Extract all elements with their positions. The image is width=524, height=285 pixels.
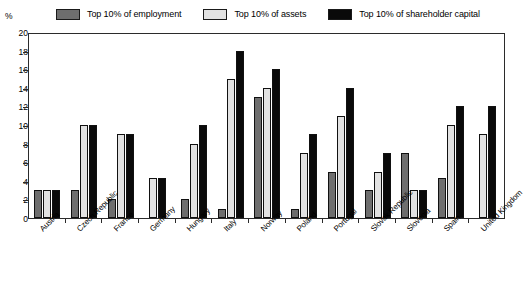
legend-swatch-icon [203,9,227,20]
x-tick-mark [322,219,323,223]
bar-capital[interactable] [456,106,464,218]
bar-group [176,34,213,218]
bar-employment[interactable] [181,199,189,218]
bar-capital[interactable] [272,69,280,218]
bar-capital[interactable] [488,106,496,218]
bar-capital[interactable] [126,134,134,218]
bar-assets[interactable] [300,153,308,218]
legend-label: Top 10% of assets [234,9,306,19]
bar-group [66,34,103,218]
x-tick-mark [175,219,176,223]
legend-label: Top 10% of shareholder capital [359,9,480,19]
bar-assets[interactable] [337,116,345,218]
bar-employment[interactable] [71,190,79,218]
bar-employment[interactable] [34,190,42,218]
bar-assets[interactable] [374,172,382,219]
bar-assets[interactable] [149,178,157,218]
legend-item-1[interactable]: Top 10% of assets [203,9,306,20]
legend-label: Top 10% of employment [87,9,181,19]
x-tick-mark [358,219,359,223]
x-tick-mark [138,219,139,223]
bar-employment[interactable] [438,178,446,218]
x-tick-mark [65,219,66,223]
x-tick-mark [432,219,433,223]
bar-group [139,34,176,218]
x-tick-mark [211,219,212,223]
bar-group [396,34,433,218]
bar-employment[interactable] [328,172,336,219]
y-axis-unit-label: % [5,12,13,21]
x-tick-mark [395,219,396,223]
bar-capital[interactable] [346,88,354,218]
bar-capital[interactable] [309,134,317,218]
bar-group [102,34,139,218]
legend-item-2[interactable]: Top 10% of shareholder capital [328,9,480,20]
bar-assets[interactable] [117,134,125,218]
bar-assets[interactable] [80,125,88,218]
bar-group [469,34,505,218]
x-tick-mark [468,219,469,223]
bar-employment[interactable] [218,209,226,218]
legend-swatch-icon [328,9,352,20]
bar-assets[interactable] [479,134,487,218]
plot-area [28,33,505,219]
bar-group [286,34,323,218]
bar-employment[interactable] [365,190,373,218]
x-tick-mark [248,219,249,223]
bar-employment[interactable] [401,153,409,218]
bar-employment[interactable] [254,97,262,218]
bar-group [249,34,286,218]
bar-group [323,34,360,218]
bar-capital[interactable] [199,125,207,218]
legend-item-0[interactable]: Top 10% of employment [56,9,181,20]
bar-group [433,34,470,218]
bar-group [359,34,396,218]
legend-swatch-icon [56,9,80,20]
x-tick-mark [285,219,286,223]
bar-group [212,34,249,218]
bar-assets[interactable] [447,125,455,218]
y-tick-label: 0 [14,215,28,224]
bar-assets[interactable] [263,88,271,218]
bar-capital[interactable] [89,125,97,218]
x-tick-mark [101,219,102,223]
bar-assets[interactable] [227,79,235,219]
y-axis: 02468101214161820 [0,33,28,219]
bar-assets[interactable] [190,144,198,218]
bar-group [29,34,66,218]
bar-employment[interactable] [291,209,299,218]
bar-capital[interactable] [236,51,244,218]
y-tick-label: 20 [14,29,28,38]
chart-legend: Top 10% of employmentTop 10% of assetsTo… [56,6,506,22]
x-tick-label: Italy [222,217,238,233]
